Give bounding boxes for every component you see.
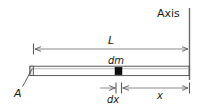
axis-label: Axis [157, 8, 180, 19]
rod-body [30, 66, 189, 75]
mass-element-block [115, 67, 122, 75]
leader-line-a [23, 69, 33, 87]
length-label: L [108, 35, 114, 46]
mass-element-label: dm [108, 56, 124, 66]
distance-label: x [157, 91, 163, 101]
width-element-label: dx [107, 95, 119, 105]
physics-diagram-figure: Axis L dm A dx x [0, 0, 204, 112]
rod-end-label: A [14, 88, 22, 99]
